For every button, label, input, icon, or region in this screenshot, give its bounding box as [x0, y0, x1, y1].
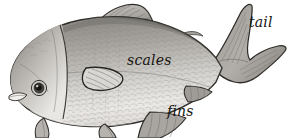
fish-diagram: tail scales fins	[0, 0, 289, 138]
label-tail: tail	[249, 15, 273, 29]
label-fins: fins	[167, 104, 194, 118]
eye-icon	[31, 80, 46, 95]
label-scales: scales	[127, 53, 172, 67]
fish-illustration	[0, 0, 289, 138]
fish-head	[9, 24, 68, 120]
